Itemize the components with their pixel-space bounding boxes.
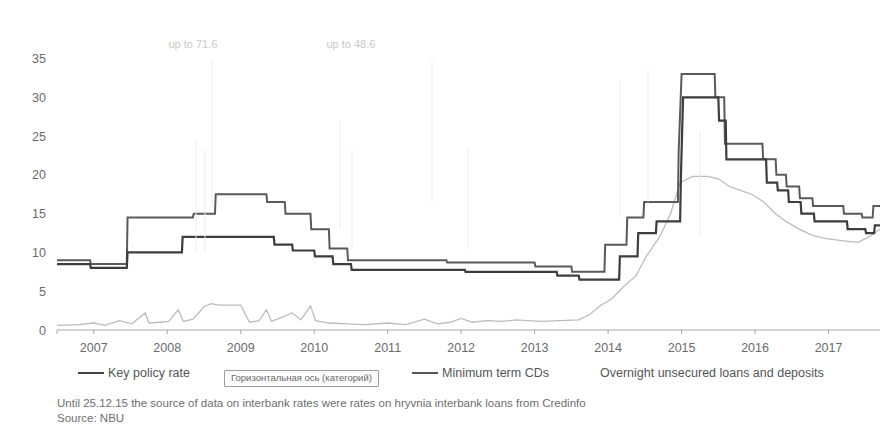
svg-text:5: 5 [39, 285, 46, 299]
svg-text:35: 35 [32, 52, 46, 66]
horizontal-axis-tooltip: Горизонтальная ось (категорий) [224, 370, 379, 387]
svg-text:2010: 2010 [300, 341, 328, 355]
svg-text:2016: 2016 [741, 341, 769, 355]
svg-text:up to 48.6: up to 48.6 [326, 38, 375, 50]
footnote-source: Source: NBU [57, 411, 586, 426]
legend-item-overnight[interactable]: Overnight unsecured loans and deposits [600, 366, 824, 380]
legend-item-minimum-term-cds[interactable]: Minimum term CDs [412, 366, 549, 380]
svg-text:20: 20 [32, 168, 46, 182]
y-axis-tick-labels: 35302520151050 [32, 52, 46, 337]
svg-text:2012: 2012 [447, 341, 475, 355]
series-group [57, 60, 880, 325]
axis-lines [57, 330, 880, 334]
legend-item-key-policy-rate[interactable]: Key policy rate [78, 366, 190, 380]
legend-label-minimum-term-cds: Minimum term CDs [442, 366, 549, 380]
chart-annotations: up to 71.6up to 48.6 [168, 38, 375, 50]
legend-label-overnight: Overnight unsecured loans and deposits [600, 366, 824, 380]
svg-text:25: 25 [32, 130, 46, 144]
legend-swatch-key-policy-rate [78, 372, 104, 374]
svg-text:2008: 2008 [153, 341, 181, 355]
svg-text:0: 0 [39, 324, 46, 338]
horizontal-axis-tooltip-label: Горизонтальная ось (категорий) [231, 372, 372, 383]
svg-text:up to 71.6: up to 71.6 [168, 38, 217, 50]
svg-text:2007: 2007 [80, 341, 108, 355]
svg-text:2009: 2009 [227, 341, 255, 355]
svg-text:2011: 2011 [374, 341, 401, 355]
chart-footnotes: Until 25.12.15 the source of data on int… [57, 396, 586, 426]
x-axis-tick-labels: 2007200820092010201120122013201420152016… [80, 341, 843, 355]
svg-text:15: 15 [32, 207, 46, 221]
svg-text:2014: 2014 [594, 341, 622, 355]
svg-text:30: 30 [32, 91, 46, 105]
legend-swatch-minimum-term-cds [412, 372, 438, 374]
svg-text:10: 10 [32, 246, 46, 260]
svg-text:2015: 2015 [668, 341, 696, 355]
legend-label-key-policy-rate: Key policy rate [108, 366, 190, 380]
svg-text:2013: 2013 [521, 341, 549, 355]
footnote-source-note: Until 25.12.15 the source of data on int… [57, 396, 586, 411]
svg-text:2017: 2017 [815, 341, 843, 355]
chart-legend: Key policy rate Minimum term CDs Overnig… [0, 366, 895, 392]
chart-container: 35302520151050 2007200820092010201120122… [0, 0, 895, 444]
